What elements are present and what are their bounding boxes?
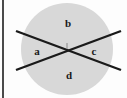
region-label-a: a (30, 46, 44, 57)
region-label-c: c (87, 46, 101, 57)
region-label-b: b (61, 18, 75, 29)
region-label-d: d (62, 70, 76, 81)
circle-chords-diagram (0, 0, 127, 98)
figure-container: a b c d (0, 0, 127, 98)
